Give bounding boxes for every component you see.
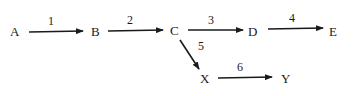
edge-label-2: 2 (127, 13, 133, 27)
edge-a-b-arrow (29, 31, 83, 32)
edge-label-6: 6 (237, 60, 243, 74)
node-c: C (170, 23, 179, 38)
edge-d-e-arrow (268, 28, 323, 29)
edge-x-y-arrow (218, 77, 272, 78)
node-a: A (10, 24, 20, 39)
edge-label-5: 5 (198, 39, 204, 53)
node-d: D (248, 24, 257, 39)
edge-b-c-arrow (108, 30, 163, 31)
node-e: E (329, 24, 337, 39)
edge-label-3: 3 (208, 13, 214, 27)
flow-diagram: A B C D E X Y 1 2 3 4 5 6 (0, 0, 354, 96)
node-y: Y (281, 71, 291, 86)
node-x: X (200, 71, 210, 86)
edge-label-1: 1 (48, 14, 54, 28)
edge-label-4: 4 (289, 11, 295, 25)
node-b: B (91, 24, 100, 39)
edge-c-x-arrow (180, 40, 199, 69)
